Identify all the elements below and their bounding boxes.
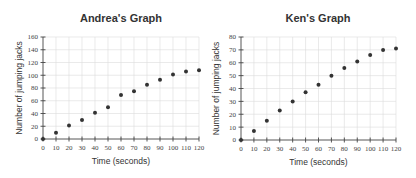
- y-tick-label: 70: [229, 46, 237, 54]
- x-axis-label: Time (seconds): [289, 157, 347, 167]
- ken-chart-title: Ken's Graph: [286, 12, 351, 24]
- x-tick-label: 100: [365, 145, 376, 153]
- data-point: [278, 108, 282, 112]
- y-tick-label: 20: [229, 111, 237, 119]
- data-point: [381, 48, 385, 52]
- data-point: [342, 66, 346, 70]
- y-tick-label: 30: [229, 98, 237, 106]
- data-point: [291, 99, 295, 103]
- data-point: [239, 138, 243, 142]
- data-point: [252, 129, 256, 133]
- data-point: [304, 90, 308, 94]
- x-tick-label: 40: [289, 145, 297, 153]
- data-point: [394, 47, 398, 51]
- x-tick-label: 10: [250, 145, 258, 153]
- y-tick-label: 10: [229, 124, 237, 132]
- data-point: [368, 53, 372, 57]
- x-tick-label: 90: [354, 145, 362, 153]
- x-tick-label: 50: [302, 145, 310, 153]
- x-tick-label: 120: [391, 145, 402, 153]
- x-tick-label: 30: [276, 145, 284, 153]
- y-tick-label: 60: [229, 59, 237, 67]
- y-tick-label: 0: [233, 136, 237, 144]
- data-point: [265, 119, 269, 123]
- data-point: [355, 59, 359, 63]
- x-tick-label: 0: [239, 145, 243, 153]
- ken-plot: 0102030405060708001020304050607080901001…: [0, 0, 416, 178]
- x-tick-label: 70: [328, 145, 336, 153]
- y-tick-label: 50: [229, 72, 237, 80]
- data-point: [329, 74, 333, 78]
- x-tick-label: 60: [315, 145, 323, 153]
- y-tick-label: 40: [229, 85, 237, 93]
- x-tick-label: 20: [263, 145, 271, 153]
- x-tick-label: 110: [378, 145, 389, 153]
- ken-chart: 0102030405060708001020304050607080901001…: [0, 0, 208, 178]
- y-tick-label: 80: [229, 33, 237, 41]
- y-axis-label: Number of jumping jacks: [211, 42, 221, 136]
- data-point: [317, 83, 321, 87]
- x-tick-label: 80: [341, 145, 349, 153]
